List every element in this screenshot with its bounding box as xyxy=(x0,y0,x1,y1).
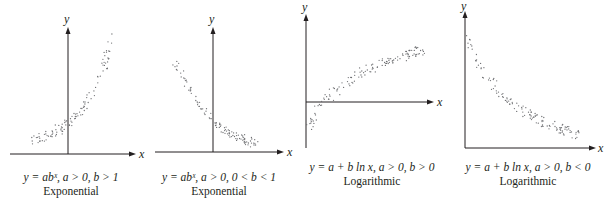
data-point xyxy=(352,82,353,83)
data-point xyxy=(389,62,390,63)
data-point xyxy=(241,134,242,135)
scatter-points xyxy=(31,33,112,144)
data-point xyxy=(90,98,91,99)
data-point xyxy=(200,108,201,109)
data-point xyxy=(97,82,98,83)
data-point xyxy=(575,138,576,139)
data-point xyxy=(104,55,105,56)
data-point xyxy=(506,98,507,99)
data-point xyxy=(348,83,349,84)
caption-equation: y = a + b ln x, a > 0, b < 0 xyxy=(453,160,603,174)
data-point xyxy=(210,113,211,114)
data-point xyxy=(105,62,106,63)
y-axis-label: y xyxy=(63,12,70,26)
data-point xyxy=(95,87,96,88)
data-point xyxy=(205,111,206,112)
data-point xyxy=(412,55,413,56)
data-point xyxy=(51,136,52,137)
data-point xyxy=(566,129,567,130)
data-point xyxy=(36,137,37,138)
data-point xyxy=(44,140,45,141)
data-point xyxy=(69,125,70,126)
data-point xyxy=(103,52,104,53)
data-point xyxy=(94,95,95,96)
data-point xyxy=(50,136,51,137)
caption-model-name: Exponential xyxy=(144,184,294,198)
x-axis-arrow-icon xyxy=(427,100,434,105)
data-point xyxy=(382,58,383,59)
caption-equation: y = abˣ, a > 0, b > 1 xyxy=(0,170,146,184)
data-point xyxy=(337,88,338,89)
data-point xyxy=(244,134,245,135)
data-point xyxy=(45,133,46,134)
data-point xyxy=(333,100,334,101)
data-point xyxy=(101,63,102,64)
data-point xyxy=(358,76,359,77)
data-point xyxy=(183,70,184,71)
data-point xyxy=(490,80,491,81)
data-point xyxy=(512,102,513,103)
data-point xyxy=(64,120,65,121)
data-point xyxy=(103,62,104,63)
data-point xyxy=(235,138,236,139)
data-point xyxy=(229,132,230,133)
data-point xyxy=(503,97,504,98)
data-point xyxy=(251,138,252,139)
data-point xyxy=(84,103,85,104)
data-point xyxy=(406,60,407,61)
data-point xyxy=(501,94,502,95)
data-point xyxy=(310,119,311,120)
data-point xyxy=(220,126,221,127)
data-point xyxy=(195,100,196,101)
data-point xyxy=(363,72,364,73)
data-point xyxy=(369,71,370,72)
data-point xyxy=(525,107,526,108)
data-point xyxy=(471,45,472,46)
data-point xyxy=(219,123,220,124)
data-point xyxy=(172,64,173,65)
y-axis-label: y xyxy=(301,0,308,14)
data-point xyxy=(45,131,46,132)
data-point xyxy=(408,50,409,51)
panel-exponential-growth: y x xyxy=(10,12,145,161)
data-point xyxy=(186,81,187,82)
data-point xyxy=(336,90,337,91)
data-point xyxy=(48,136,49,137)
data-point xyxy=(420,50,421,51)
data-point xyxy=(468,47,469,48)
data-point xyxy=(199,102,200,103)
data-point xyxy=(33,135,34,136)
data-point xyxy=(311,121,312,122)
data-point xyxy=(257,141,258,142)
data-point xyxy=(415,54,416,55)
data-point xyxy=(563,134,564,135)
data-point xyxy=(197,104,198,105)
data-point xyxy=(75,116,76,117)
data-point xyxy=(314,105,315,106)
data-point xyxy=(365,65,366,66)
data-point xyxy=(360,74,361,75)
data-point xyxy=(547,125,548,126)
data-point xyxy=(310,123,311,124)
data-point xyxy=(554,126,555,127)
data-point xyxy=(509,104,510,105)
data-point xyxy=(507,102,508,103)
data-point xyxy=(472,49,473,50)
caption-exponential-growth: y = abˣ, a > 0, b > 1 Exponential xyxy=(0,170,146,198)
data-point xyxy=(108,58,109,59)
caption-exponential-decay: y = abˣ, a > 0, 0 < b < 1 Exponential xyxy=(144,170,294,198)
data-point xyxy=(81,108,82,109)
data-point xyxy=(38,136,39,137)
data-point xyxy=(180,72,181,73)
data-point xyxy=(198,106,199,107)
data-point xyxy=(488,79,489,80)
data-point xyxy=(52,131,53,132)
data-point xyxy=(82,114,83,115)
data-point xyxy=(516,111,517,112)
data-point xyxy=(542,124,543,125)
data-point xyxy=(66,120,67,121)
data-point xyxy=(467,43,468,44)
data-point xyxy=(522,111,523,112)
data-point xyxy=(568,126,569,127)
data-point xyxy=(413,53,414,54)
